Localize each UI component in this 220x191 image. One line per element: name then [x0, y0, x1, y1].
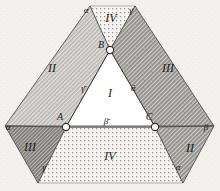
point-label-A: A [56, 111, 64, 122]
greek-label-alpha-bar-right: ᾱ [131, 83, 136, 93]
point-marker-B[interactable] [106, 46, 113, 53]
region-label-III-bottom-left: III [23, 140, 37, 154]
geometric-figure-svg: I II III III II IV IV A B C α γ α β γ α … [0, 0, 220, 191]
point-label-C: C [146, 111, 153, 122]
region-label-IV-top: IV [104, 11, 118, 25]
point-marker-C[interactable] [151, 123, 158, 130]
greek-label-alpha-bottom-right: α [176, 162, 181, 172]
point-label-B: B [98, 39, 104, 50]
greek-label-alpha-top: α [84, 5, 89, 15]
greek-label-gamma-bottom-left: γ [42, 162, 46, 172]
figure-canvas: I II III III II IV IV A B C α γ α β γ α … [0, 0, 220, 191]
greek-label-alpha-left: α [6, 122, 11, 132]
point-marker-A[interactable] [62, 123, 69, 130]
region-label-II-left: II [47, 61, 57, 75]
region-label-II-bottom-right: II [185, 141, 195, 155]
region-label-IV-bottom: IV [103, 149, 117, 163]
greek-label-gamma-top: γ [129, 5, 133, 15]
region-label-III-right: III [161, 61, 175, 75]
greek-label-beta-right: β [203, 122, 209, 132]
